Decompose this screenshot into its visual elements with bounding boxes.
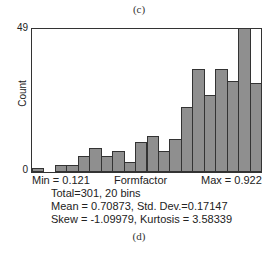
figure-caption-c: (c) bbox=[0, 3, 278, 15]
y-tick-max: 49 bbox=[2, 22, 28, 33]
y-tick-zero: 0 bbox=[2, 164, 28, 175]
x-min-label: Min = 0.121 bbox=[32, 174, 90, 186]
figure-caption-d: (d) bbox=[0, 230, 278, 242]
x-max-label: Max = 0.922 bbox=[201, 174, 262, 186]
histogram-bar bbox=[32, 168, 44, 172]
histogram-plot-area bbox=[31, 28, 262, 173]
x-axis-label: Formfactor bbox=[114, 174, 167, 186]
stats-mean-stddev: Mean = 0.70873, Std. Dev.=0.17147 bbox=[51, 200, 228, 212]
stats-skew-kurtosis: Skew = -1.09979, Kurtosis = 3.58339 bbox=[51, 213, 232, 225]
y-axis-label: Count bbox=[17, 77, 28, 111]
stats-total: Total=301, 20 bins bbox=[51, 187, 141, 199]
histogram-bar bbox=[250, 83, 262, 172]
